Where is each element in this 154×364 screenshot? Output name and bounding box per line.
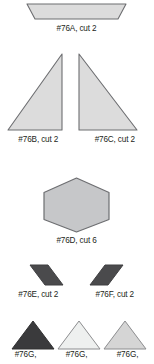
piece-label-76g-dark: #76G, — [0, 351, 51, 359]
pattern-piece-sheet: #76A, cut 2 #76B, cut 2 #76C, cut 2 #76D… — [0, 0, 153, 364]
piece-label-76e: #76E, cut 2 — [0, 291, 77, 299]
piece-label-76f: #76F, cut 2 — [77, 291, 154, 299]
piece-group-76a: #76A, cut 2 — [0, 2, 153, 33]
piece-shape-76f-parallelogram — [90, 265, 123, 285]
piece-group-76e-76f: #76E, cut 2 #76F, cut 2 — [0, 262, 153, 299]
piece-shape-76b-right-triangle — [8, 54, 62, 130]
piece-shapes-76g — [0, 318, 153, 350]
piece-group-76g: #76G, #76G, #76G, — [0, 318, 153, 359]
piece-shape-76a-trapezoid — [0, 2, 153, 22]
piece-shape-76d-hexagon — [0, 176, 153, 234]
piece-shape-76e-parallelogram — [30, 265, 63, 285]
piece-group-76d: #76D, cut 6 — [0, 176, 153, 245]
piece-label-row-76b-76c: #76B, cut 2 #76C, cut 2 — [0, 136, 153, 144]
piece-shapes-76e-76f — [0, 262, 153, 288]
piece-label-76b: #76B, cut 2 — [0, 136, 77, 144]
piece-label-row-76e-76f: #76E, cut 2 #76F, cut 2 — [0, 291, 153, 299]
piece-shape-76c-right-triangle — [79, 54, 137, 130]
piece-label-76g-mid: #76G, — [102, 351, 153, 359]
piece-label-76a: #76A, cut 2 — [0, 25, 153, 33]
piece-label-76c: #76C, cut 2 — [77, 136, 154, 144]
piece-group-76b-76c: #76B, cut 2 #76C, cut 2 — [0, 52, 153, 144]
piece-shape-76g-dark-triangle — [12, 321, 54, 349]
piece-shape-76g-light-triangle — [58, 321, 100, 349]
piece-shape-76g-mid-triangle — [104, 321, 146, 349]
piece-label-row-76g: #76G, #76G, #76G, — [0, 351, 153, 359]
piece-label-76g-light: #76G, — [51, 351, 102, 359]
piece-shapes-76b-76c — [0, 52, 153, 134]
piece-label-76d: #76D, cut 6 — [0, 237, 153, 245]
